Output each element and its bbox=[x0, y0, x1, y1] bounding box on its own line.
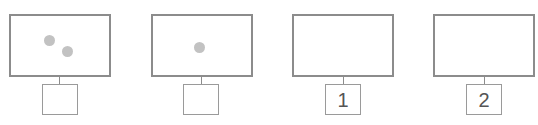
panel-1-stem bbox=[59, 77, 60, 84]
panel-3-answer-box[interactable]: 1 bbox=[325, 84, 361, 115]
panel-2-answer-box[interactable] bbox=[183, 84, 219, 115]
panel-3-stem bbox=[343, 77, 344, 84]
panel-3-screen bbox=[292, 14, 394, 77]
panel-4-answer-box[interactable]: 2 bbox=[466, 84, 502, 115]
panel-4-screen bbox=[433, 14, 535, 77]
dot bbox=[62, 46, 73, 57]
dot bbox=[194, 42, 205, 53]
dot bbox=[44, 35, 55, 46]
panel-1-answer-box[interactable] bbox=[42, 84, 78, 115]
panel-2-screen bbox=[151, 14, 253, 77]
panel-2-stem bbox=[201, 77, 202, 84]
panel-4-stem bbox=[484, 77, 485, 84]
panel-1-screen bbox=[9, 14, 111, 77]
